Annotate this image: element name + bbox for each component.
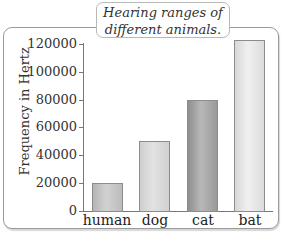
bar-bat — [234, 40, 265, 212]
bar-dog — [139, 141, 170, 212]
chart-title-line-2: different animals. — [97, 21, 229, 38]
y-tick — [79, 100, 84, 101]
y-tick — [79, 72, 84, 73]
y-tick — [79, 44, 84, 45]
x-label-bat: bat — [225, 212, 275, 228]
y-tick-label: 40000 — [7, 148, 77, 162]
y-tick — [79, 127, 84, 128]
y-tick-label: 80000 — [7, 93, 77, 107]
chart-title-line-1: Hearing ranges of — [97, 4, 229, 21]
bar-cat — [187, 100, 218, 212]
bar-human — [92, 183, 123, 212]
y-tick-label: 0 — [7, 204, 77, 218]
x-label-cat: cat — [178, 212, 228, 228]
y-tick-label: 100000 — [7, 65, 77, 79]
y-tick — [79, 155, 84, 156]
y-tick — [79, 183, 84, 184]
y-tick-label: 20000 — [7, 176, 77, 190]
y-tick-label: 120000 — [7, 37, 77, 51]
y-tick-label: 60000 — [7, 120, 77, 134]
x-label-dog: dog — [130, 212, 180, 228]
x-label-human: human — [82, 212, 132, 228]
chart-title: Hearing ranges of different animals. — [96, 2, 230, 38]
